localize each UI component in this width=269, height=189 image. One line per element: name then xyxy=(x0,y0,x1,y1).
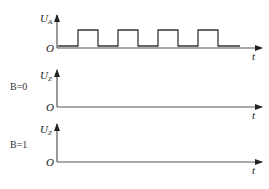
output-plot-b1: UZ B=1 O t xyxy=(10,123,262,176)
condition-label: B=1 xyxy=(10,139,27,150)
y-axis-label: UZ xyxy=(40,123,52,137)
condition-label: B=0 xyxy=(10,81,27,92)
time-axis-label: t xyxy=(252,50,256,62)
output-plot-b0: UZ B=0 O t xyxy=(10,69,262,121)
time-axis-label: t xyxy=(252,109,256,121)
origin-label: O xyxy=(46,42,54,54)
origin-label: O xyxy=(46,156,54,168)
y-axis-label: UZ xyxy=(40,69,52,83)
time-axis-label: t xyxy=(252,164,256,176)
timing-diagram: UA O t UZ B=0 O t UZ B=1 O t xyxy=(0,0,269,189)
origin-label: O xyxy=(46,101,54,113)
input-waveform-plot: UA O t xyxy=(40,12,262,62)
square-wave xyxy=(58,30,240,46)
y-axis-label: UA xyxy=(40,12,53,26)
